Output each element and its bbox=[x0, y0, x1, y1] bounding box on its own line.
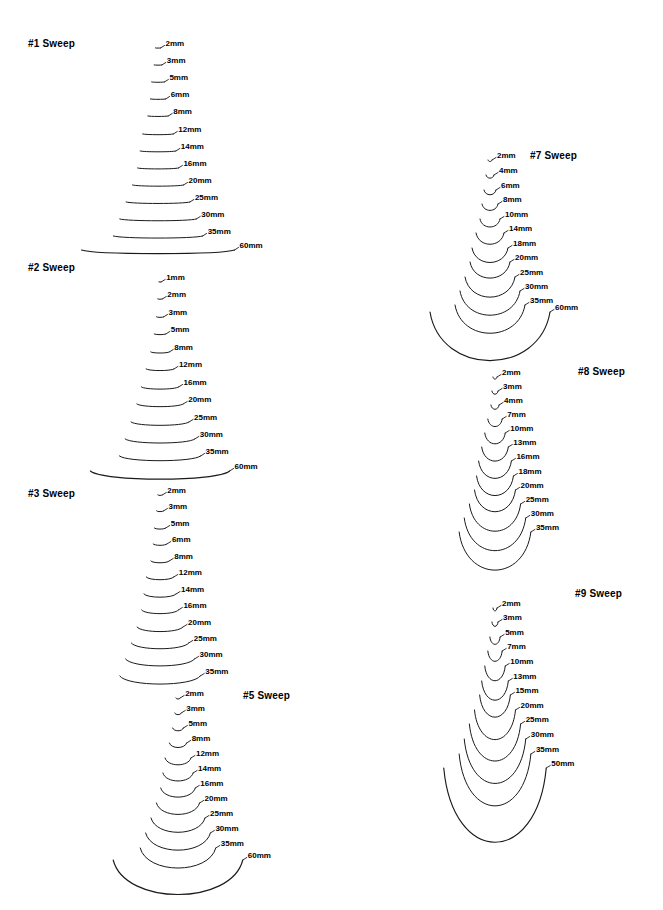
sweep-arc bbox=[465, 277, 515, 297]
sweep-leader-line bbox=[520, 289, 524, 292]
sweep-leader-line bbox=[498, 620, 502, 623]
sweep-arc bbox=[157, 511, 164, 512]
sweep-size-label: 2mm bbox=[167, 487, 186, 495]
sweep-size-label: 5mm bbox=[188, 720, 207, 728]
sweep-arc bbox=[469, 724, 520, 761]
sweep-curves-layer bbox=[0, 0, 663, 910]
sweep-arc bbox=[141, 387, 178, 389]
sweep-arc bbox=[161, 788, 196, 797]
sweep-size-label: 3mm bbox=[168, 309, 187, 317]
sweep-size-label: 30mm bbox=[200, 651, 223, 659]
sweep-size-label: 12mm bbox=[196, 750, 219, 758]
sweep-leader-line bbox=[162, 493, 166, 496]
sweep-size-label: 60mm bbox=[248, 852, 271, 860]
sweep-size-label: 30mm bbox=[525, 283, 548, 291]
sweep-arc bbox=[469, 504, 520, 531]
sweep-size-label: 6mm bbox=[172, 536, 191, 544]
sweep-leader-line bbox=[163, 315, 167, 318]
sweep-arc bbox=[140, 151, 176, 152]
sweep-arc bbox=[131, 422, 189, 425]
sweep-size-label: 7mm bbox=[507, 643, 526, 651]
sweep-leader-line bbox=[500, 217, 504, 220]
sweep-arc bbox=[493, 377, 497, 379]
sweep-arc bbox=[488, 419, 502, 427]
sweep-arc bbox=[479, 461, 512, 478]
sweep-arc bbox=[146, 369, 174, 371]
sweep-arc bbox=[153, 544, 167, 545]
sweep-leader-line bbox=[498, 389, 502, 392]
sweep-leader-line bbox=[178, 166, 182, 169]
sweep-arc bbox=[482, 447, 509, 461]
sweep-group-title-sweep-3: #3 Sweep bbox=[28, 488, 75, 499]
sweep-arc bbox=[120, 219, 197, 221]
sweep-size-label: 3mm bbox=[168, 503, 187, 511]
sweep-arc bbox=[475, 490, 516, 512]
sweep-size-label: 15mm bbox=[515, 687, 538, 695]
sweep-size-label: 25mm bbox=[210, 810, 233, 818]
sweep-size-label: 14mm bbox=[198, 765, 221, 773]
sweep-size-label: 12mm bbox=[179, 569, 202, 577]
sweep-size-label: 13mm bbox=[513, 439, 536, 447]
sweep-leader-line bbox=[173, 132, 177, 135]
sweep-leader-line bbox=[521, 502, 525, 505]
sweep-arc bbox=[488, 160, 492, 162]
sweep-size-label: 12mm bbox=[179, 361, 202, 369]
sweep-leader-line bbox=[216, 846, 220, 849]
sweep-size-label: 30mm bbox=[215, 825, 238, 833]
sweep-arc bbox=[455, 305, 525, 333]
sweep-size-label: 20mm bbox=[521, 482, 544, 490]
sweep-leader-line bbox=[174, 575, 178, 578]
sweep-arc bbox=[430, 312, 550, 361]
sweep-size-label: 2mm bbox=[502, 369, 521, 377]
sweep-size-label: 2mm bbox=[167, 291, 186, 299]
sweep-leader-line bbox=[235, 248, 239, 251]
sweep-size-label: 10mm bbox=[510, 658, 533, 666]
sweep-leader-line bbox=[494, 173, 498, 176]
sweep-arc bbox=[125, 439, 195, 443]
sweep-arc bbox=[475, 710, 516, 740]
sweep-leader-line bbox=[521, 722, 525, 725]
sweep-arc bbox=[493, 608, 497, 611]
sweep-size-label: 3mm bbox=[503, 383, 522, 391]
sweep-arc bbox=[126, 202, 190, 203]
sweep-size-label: 5mm bbox=[505, 629, 524, 637]
sweep-size-label: 8mm bbox=[173, 108, 192, 116]
sweep-leader-line bbox=[187, 741, 191, 744]
sweep-arc bbox=[476, 233, 504, 244]
sweep-arc bbox=[140, 848, 216, 868]
sweep-leader-line bbox=[169, 350, 173, 353]
sweep-leader-line bbox=[508, 246, 512, 249]
sweep-arc bbox=[470, 262, 510, 278]
sweep-arc bbox=[492, 622, 498, 626]
sweep-leader-line bbox=[164, 80, 168, 83]
sweep-size-label: 8mm bbox=[174, 344, 193, 352]
sweep-leader-line bbox=[498, 202, 502, 205]
sweep-leader-line bbox=[193, 771, 197, 774]
sweep-leader-line bbox=[550, 310, 554, 313]
sweep-leader-line bbox=[191, 756, 195, 759]
sweep-size-label: 20mm bbox=[189, 177, 212, 185]
sweep-arc bbox=[472, 248, 508, 263]
sweep-arc bbox=[156, 803, 199, 815]
sweep-leader-line bbox=[167, 542, 171, 545]
sweep-size-label: 30mm bbox=[200, 431, 223, 439]
sweep-leader-line bbox=[526, 516, 530, 519]
sweep-leader-line bbox=[505, 431, 509, 434]
sweep-leader-line bbox=[531, 530, 535, 533]
sweep-leader-line bbox=[496, 188, 500, 191]
sweep-leader-line bbox=[531, 752, 535, 755]
sweep-size-label: 14mm bbox=[509, 225, 532, 233]
sweep-leader-line bbox=[190, 200, 194, 203]
sweep-leader-line bbox=[183, 726, 187, 729]
sweep-leader-line bbox=[510, 260, 514, 263]
sweep-leader-line bbox=[526, 737, 530, 740]
sweep-size-label: 7mm bbox=[507, 411, 526, 419]
sweep-size-label: 60mm bbox=[555, 304, 578, 312]
sweep-arc bbox=[480, 219, 500, 227]
sweep-size-label: 2mm bbox=[166, 40, 185, 48]
sweep-size-label: 18mm bbox=[513, 240, 536, 248]
sweep-leader-line bbox=[505, 664, 509, 667]
sweep-size-label: 3mm bbox=[503, 614, 522, 622]
sweep-leader-line bbox=[511, 459, 515, 462]
sweep-arc bbox=[144, 594, 176, 597]
